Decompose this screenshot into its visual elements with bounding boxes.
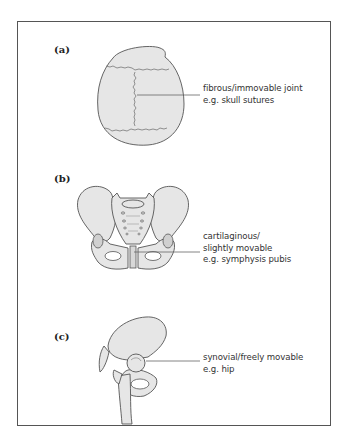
- caption-c-line-2: e.g. hip: [203, 364, 303, 376]
- skull-illustration: [98, 46, 200, 145]
- hip-illustration: [99, 317, 200, 424]
- caption-c: synovial/freely movable e.g. hip: [203, 352, 303, 375]
- panel-label-a: (a): [54, 44, 70, 55]
- panel-label-c: (c): [54, 331, 70, 342]
- caption-b-line-3: e.g. symphysis pubis: [203, 254, 291, 266]
- panel-label-b: (b): [54, 173, 70, 184]
- caption-c-line-1: synovial/freely movable: [203, 352, 303, 364]
- caption-b-line-1: cartilaginous/: [203, 231, 291, 243]
- caption-b-line-2: slightly movable: [203, 243, 291, 255]
- caption-a: fibrous/immovable joint e.g. skull sutur…: [203, 83, 302, 106]
- caption-a-line-1: fibrous/immovable joint: [203, 83, 302, 95]
- pelvis-illustration: [77, 186, 200, 269]
- caption-b: cartilaginous/ slightly movable e.g. sym…: [203, 231, 291, 266]
- caption-a-line-2: e.g. skull sutures: [203, 95, 302, 107]
